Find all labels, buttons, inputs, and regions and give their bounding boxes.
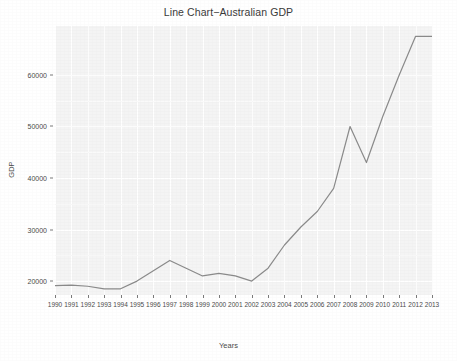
y-axis-label: GDP	[7, 150, 16, 190]
x-tick-mark	[317, 295, 318, 298]
x-tick-label: 2013	[425, 301, 439, 308]
x-tick-label: 2005	[294, 301, 308, 308]
x-tick-mark	[383, 295, 384, 298]
x-tick-label: 1999	[195, 301, 209, 308]
x-tick-label: 1994	[113, 301, 127, 308]
x-tick-mark	[219, 295, 220, 298]
x-tick-mark	[170, 295, 171, 298]
x-tick-mark	[432, 295, 433, 298]
x-axis-label: Years	[0, 341, 457, 350]
x-tick-label: 2002	[244, 301, 258, 308]
x-tick-mark	[416, 295, 417, 298]
x-tick-mark	[284, 295, 285, 298]
x-tick-mark	[366, 295, 367, 298]
x-tick-mark	[203, 295, 204, 298]
x-tick-label: 1997	[163, 301, 177, 308]
x-tick-mark	[235, 295, 236, 298]
x-tick-mark	[137, 295, 138, 298]
x-tick-label: 2010	[376, 301, 390, 308]
x-tick-label: 2012	[408, 301, 422, 308]
x-tick-mark	[121, 295, 122, 298]
x-tick-label: 2007	[326, 301, 340, 308]
x-tick-label: 2004	[277, 301, 291, 308]
x-tick-mark	[71, 295, 72, 298]
x-tick-label: 2008	[343, 301, 357, 308]
x-tick-label: 1998	[179, 301, 193, 308]
x-tick-mark	[252, 295, 253, 298]
x-tick-label: 2001	[228, 301, 242, 308]
x-tick-label: 2000	[212, 301, 226, 308]
x-tick-mark	[153, 295, 154, 298]
x-tick-mark	[350, 295, 351, 298]
x-tick-mark	[55, 295, 56, 298]
x-tick-mark	[399, 295, 400, 298]
x-tick-label: 2006	[310, 301, 324, 308]
x-tick-label: 1992	[81, 301, 95, 308]
x-tick-label: 1991	[64, 301, 78, 308]
x-tick-label: 2009	[359, 301, 373, 308]
x-tick-mark	[88, 295, 89, 298]
x-tick-label: 2003	[261, 301, 275, 308]
x-tick-label: 1995	[130, 301, 144, 308]
x-tick-mark	[334, 295, 335, 298]
x-tick-label: 1993	[97, 301, 111, 308]
x-tick-mark	[301, 295, 302, 298]
x-tick-mark	[268, 295, 269, 298]
x-tick-label: 1990	[48, 301, 62, 308]
x-tick-mark	[104, 295, 105, 298]
x-axis-ticks: 1990199119921993199419951996199719981999…	[0, 0, 457, 361]
line-chart: Line Chart−Australian GDP 20000300004000…	[0, 0, 457, 361]
x-tick-label: 2011	[392, 301, 406, 308]
x-tick-label: 1996	[146, 301, 160, 308]
x-tick-mark	[186, 295, 187, 298]
